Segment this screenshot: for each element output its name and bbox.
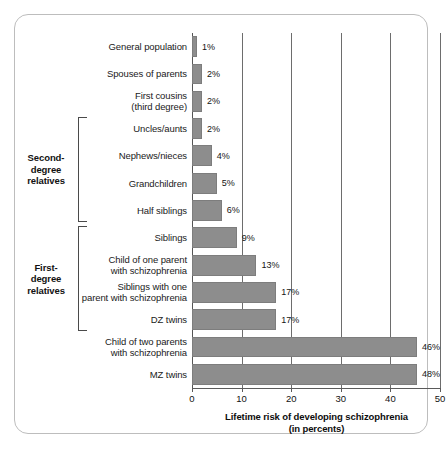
bar-row[interactable]: 4%	[192, 145, 440, 166]
bar-row[interactable]: 2%	[192, 118, 440, 139]
category-label: Siblings with oneparent with schizophren…	[30, 281, 187, 303]
bar-value-label: 46%	[422, 342, 440, 352]
bar-row[interactable]: 2%	[192, 91, 440, 112]
bar-row[interactable]: 17%	[192, 282, 440, 303]
x-tick-label: 40	[385, 393, 396, 404]
bar-value-label: 5%	[222, 178, 235, 188]
bar-value-label: 2%	[207, 69, 220, 79]
bar-value-label: 6%	[227, 205, 240, 215]
category-label-line: Child of one parent	[30, 254, 187, 265]
category-label-line: Child of two parents	[30, 336, 187, 347]
bar-row[interactable]: 1%	[192, 36, 440, 57]
category-label: Nephews/nieces	[30, 150, 187, 161]
x-tick-50	[440, 388, 441, 392]
bar-value-label: 2%	[207, 96, 220, 106]
category-label: Child of two parentswith schizophrenia	[30, 336, 187, 358]
category-label-line: (third degree)	[30, 101, 187, 112]
bar-row[interactable]: 9%	[192, 227, 440, 248]
bar-value-label: 4%	[217, 151, 230, 161]
bar[interactable]	[192, 118, 202, 139]
category-label-line: parent with schizophrenia	[30, 292, 187, 303]
bar[interactable]	[192, 227, 237, 248]
x-tick-40	[390, 388, 391, 392]
x-tick-30	[341, 388, 342, 392]
x-axis-title-line1: Lifetime risk of developing schizophreni…	[192, 411, 441, 423]
bar-row[interactable]: 17%	[192, 309, 440, 330]
x-tick-0	[192, 388, 193, 392]
category-label-line: Siblings with one	[30, 281, 187, 292]
plot-area: 1%2%2%2%4%5%6%9%13%17%17%46%48%	[192, 33, 440, 388]
category-label: Siblings	[30, 232, 187, 243]
bar-row[interactable]: 13%	[192, 255, 440, 276]
category-label: Grandchildren	[30, 178, 187, 189]
bar[interactable]	[192, 91, 202, 112]
bar[interactable]	[192, 36, 197, 57]
x-tick-20	[291, 388, 292, 392]
category-label: MZ twins	[30, 369, 187, 380]
bar[interactable]	[192, 337, 417, 358]
category-label-line: Half siblings	[30, 205, 187, 216]
category-label-line: DZ twins	[30, 314, 187, 325]
bar[interactable]	[192, 364, 417, 385]
category-label: Child of one parentwith schizophrenia	[30, 254, 187, 276]
bar-row[interactable]: 2%	[192, 64, 440, 85]
schizophrenia-risk-figure: Second-degreerelativesFirst-degreerelati…	[0, 0, 446, 452]
category-label-line: Spouses of parents	[30, 68, 187, 79]
category-label: Half siblings	[30, 205, 187, 216]
category-label: First cousins(third degree)	[30, 90, 187, 112]
x-axis-title-line2: (in percents)	[192, 423, 441, 435]
bar-row[interactable]: 5%	[192, 173, 440, 194]
gridline-50	[440, 33, 441, 388]
x-tick-label: 30	[336, 393, 347, 404]
category-label-line: with schizophrenia	[30, 265, 187, 276]
bar-row-container: 1%2%2%2%4%5%6%9%13%17%17%46%48%	[192, 33, 440, 388]
category-label-line: Siblings	[30, 232, 187, 243]
category-label-line: Nephews/nieces	[30, 150, 187, 161]
bar[interactable]	[192, 64, 202, 85]
bar[interactable]	[192, 255, 256, 276]
bar-value-label: 9%	[242, 233, 255, 243]
x-tick-label: 20	[286, 393, 297, 404]
bar-value-label: 1%	[202, 42, 215, 52]
category-label-line: with schizophrenia	[30, 347, 187, 358]
category-label-column: General populationSpouses of parentsFirs…	[30, 33, 187, 388]
bar-row[interactable]: 6%	[192, 200, 440, 221]
bar[interactable]	[192, 309, 276, 330]
bar[interactable]	[192, 200, 222, 221]
bar[interactable]	[192, 173, 217, 194]
bar-row[interactable]: 48%	[192, 364, 440, 385]
x-axis-line	[192, 388, 441, 389]
bar[interactable]	[192, 282, 276, 303]
category-label: DZ twins	[30, 314, 187, 325]
category-label: Spouses of parents	[30, 68, 187, 79]
bar-value-label: 2%	[207, 124, 220, 134]
category-label-line: First cousins	[30, 90, 187, 101]
category-label-line: General population	[30, 41, 187, 52]
x-tick-label: 50	[435, 393, 446, 404]
x-axis-title: Lifetime risk of developing schizophreni…	[192, 411, 441, 434]
bar-value-label: 17%	[281, 315, 299, 325]
x-tick-label: 0	[189, 393, 194, 404]
bar-value-label: 17%	[281, 287, 299, 297]
bar-row[interactable]: 46%	[192, 337, 440, 358]
category-label: General population	[30, 41, 187, 52]
category-label-line: Uncles/aunts	[30, 123, 187, 134]
bar-value-label: 48%	[422, 369, 440, 379]
category-label: Uncles/aunts	[30, 123, 187, 134]
x-tick-label: 10	[236, 393, 247, 404]
bar-value-label: 13%	[261, 260, 279, 270]
category-label-line: Grandchildren	[30, 178, 187, 189]
x-tick-10	[242, 388, 243, 392]
category-label-line: MZ twins	[30, 369, 187, 380]
bar[interactable]	[192, 145, 212, 166]
